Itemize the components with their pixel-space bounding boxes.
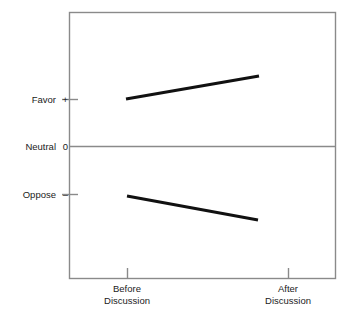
- y-label-neutral: Neutral: [25, 141, 56, 152]
- y-symbol-neutral: 0: [63, 141, 68, 152]
- plot-background: [69, 12, 336, 279]
- y-symbol-oppose: –: [63, 189, 69, 200]
- x-label-before-line2: Discussion: [104, 295, 150, 306]
- x-label-after-line1: After: [278, 283, 298, 294]
- chart-canvas: Favor + Neutral 0 Oppose – Before Discus…: [0, 0, 353, 320]
- y-symbol-favor: +: [62, 94, 68, 105]
- y-label-oppose: Oppose: [23, 189, 56, 200]
- attitude-polarization-chart: Favor + Neutral 0 Oppose – Before Discus…: [0, 0, 353, 320]
- y-label-favor: Favor: [32, 94, 56, 105]
- x-label-after-line2: Discussion: [265, 295, 311, 306]
- x-label-before-line1: Before: [113, 283, 141, 294]
